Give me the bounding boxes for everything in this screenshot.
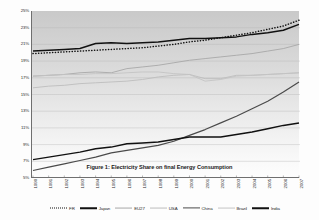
x-axis-tick-label: 2003 (237, 179, 241, 188)
x-axis-ticks (33, 176, 299, 179)
legend-item-eu27[interactable]: EU27 (115, 206, 145, 211)
x-axis-labels: 1990199119921993199419951996199719981999… (31, 179, 299, 203)
x-axis-tick-label: 1992 (65, 179, 69, 188)
legend-swatch-icon (50, 206, 67, 211)
x-axis-tick-label: 1995 (112, 179, 116, 188)
y-axis-tick-label: 23% (7, 25, 29, 29)
x-axis-tick-label: 2006 (284, 179, 288, 188)
y-axis-tick-label: 7% (7, 159, 29, 163)
x-axis-tick-label: 2004 (253, 179, 257, 188)
legend-item-india[interactable]: India (252, 206, 280, 211)
legend-label: India (271, 206, 280, 211)
x-axis-tick-label: 2000 (190, 179, 194, 188)
chart-title: Figure 1: Electricity Share on final Ene… (0, 164, 319, 170)
legend-item-usa[interactable]: USA (150, 206, 178, 211)
legend-item-fr[interactable]: FR (50, 206, 75, 211)
y-axis-tick-label: 21% (7, 42, 29, 46)
x-axis-tick-label: 1994 (96, 179, 100, 188)
x-axis-tick-label: 1999 (175, 179, 179, 188)
legend-label: USA (169, 206, 178, 211)
y-axis-labels: 5%7%9%11%13%15%17%19%21%23%25% (2, 11, 29, 178)
legend-swatch-icon (218, 206, 235, 211)
legend-label: FR (69, 206, 75, 211)
y-axis-tick-label: 25% (7, 9, 29, 13)
legend-label: EU27 (134, 206, 145, 211)
legend-label: Japan (99, 206, 110, 211)
legend-swatch-icon (115, 206, 132, 211)
x-axis-tick-label: 2001 (206, 179, 210, 188)
legend-item-brazil[interactable]: Brazil (218, 206, 247, 211)
x-axis-tick-label: 2007 (300, 179, 304, 188)
legend-item-japan[interactable]: Japan (80, 206, 110, 211)
y-axis-tick-label: 13% (7, 109, 29, 113)
x-axis-tick-label: 1997 (143, 179, 147, 188)
legend-label: Brazil (237, 206, 247, 211)
chart-legend: FRJapanEU27USAChinaBrazilIndia (31, 202, 299, 214)
y-axis-tick-label: 15% (7, 92, 29, 96)
x-axis-tick-label: 1991 (49, 179, 53, 188)
y-axis-tick-label: 19% (7, 59, 29, 63)
legend-item-china[interactable]: China (183, 206, 213, 211)
chart-canvas (32, 11, 300, 178)
y-axis-tick-label: 17% (7, 76, 29, 80)
x-axis-tick-label: 1990 (34, 179, 38, 188)
figure-container: 5%7%9%11%13%15%17%19%21%23%25% 199019911… (0, 0, 319, 220)
series-lines (33, 20, 299, 170)
x-axis-tick-label: 2002 (221, 179, 225, 188)
legend-swatch-icon (183, 206, 200, 211)
y-axis-tick-label: 5% (7, 176, 29, 180)
legend-swatch-icon (252, 206, 269, 211)
legend-swatch-icon (80, 206, 97, 211)
plot-area (31, 11, 299, 178)
y-axis-tick-label: 11% (7, 126, 29, 130)
y-axis-tick-label: 9% (7, 142, 29, 146)
x-axis-tick-label: 1996 (128, 179, 132, 188)
series-line-china (33, 82, 299, 170)
x-axis-tick-label: 1998 (159, 179, 163, 188)
x-axis-tick-label: 1993 (81, 179, 85, 188)
legend-label: China (202, 206, 213, 211)
series-line-japan (33, 24, 299, 51)
series-line-india (33, 123, 299, 160)
x-axis-tick-label: 2005 (268, 179, 272, 188)
legend-swatch-icon (150, 206, 167, 211)
